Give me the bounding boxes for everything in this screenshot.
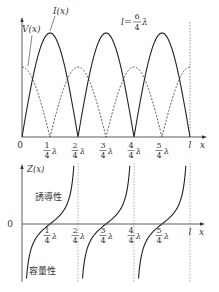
inductive-region-label: 誘導性	[35, 191, 62, 202]
bottom-x-label: x	[199, 227, 204, 237]
svg-text:5: 5	[156, 141, 161, 150]
top-tick-labels: 14λ24λ34λ44λ54λ	[44, 141, 170, 160]
tick-label: 34λ	[100, 141, 114, 160]
bottom-x-arrow-icon	[200, 222, 205, 225]
svg-text:4: 4	[44, 236, 49, 245]
impedance-label: Z(x)	[26, 164, 44, 174]
top-y-arrow-icon	[20, 17, 23, 22]
tick-label: 24λ	[72, 226, 86, 245]
svg-text:1: 1	[44, 141, 49, 150]
svg-text:λ: λ	[107, 147, 113, 156]
voltage-curve	[22, 67, 190, 137]
top-plot: I(x) V(x) l= 6 4 λ 0 l x 14λ24λ34λ44λ54λ	[17, 6, 207, 160]
tick-label: 14λ	[44, 141, 58, 160]
current-curve	[22, 33, 190, 137]
capacitive-region-label: 容量性	[29, 265, 56, 276]
svg-text:3: 3	[100, 226, 105, 235]
tick-label: 54λ	[156, 141, 170, 160]
svg-text:λ: λ	[163, 147, 169, 156]
impedance-curve	[26, 166, 185, 279]
current-label: I(x)	[52, 6, 69, 16]
svg-text:4: 4	[72, 151, 77, 160]
svg-text:2: 2	[72, 141, 77, 150]
svg-text:4: 4	[100, 151, 105, 160]
svg-text:λ: λ	[135, 147, 141, 156]
tick-label: 54λ	[156, 226, 170, 245]
tick-label: 44λ	[128, 226, 142, 245]
tick-label: 24λ	[72, 141, 86, 160]
bottom-plot: Z(x) 0 l x 誘導性 容量性 14λ24λ34λ44λ54λ	[7, 163, 205, 282]
svg-text:2: 2	[72, 226, 77, 235]
svg-text:4: 4	[44, 151, 49, 160]
bottom-end-label: l	[189, 227, 192, 237]
svg-text:4: 4	[128, 236, 133, 245]
tick-label: 34λ	[100, 226, 114, 245]
standing-wave-diagram: I(x) V(x) l= 6 4 λ 0 l x 14λ24λ34λ44λ54λ…	[0, 0, 219, 292]
top-origin-label: 0	[17, 140, 23, 150]
svg-text:4: 4	[156, 151, 161, 160]
tick-label: 14λ	[44, 226, 58, 245]
svg-text:4: 4	[156, 236, 161, 245]
svg-text:λ: λ	[163, 232, 169, 241]
svg-text:5: 5	[156, 226, 161, 235]
svg-text:4: 4	[128, 226, 133, 235]
svg-text:λ: λ	[135, 232, 141, 241]
bottom-zero-label: 0	[7, 219, 13, 229]
svg-text:λ: λ	[51, 147, 57, 156]
svg-text:4: 4	[134, 23, 139, 32]
svg-text:4: 4	[72, 236, 77, 245]
svg-text:1: 1	[44, 226, 49, 235]
voltage-label: V(x)	[22, 24, 41, 34]
top-x-arrow-icon	[202, 135, 207, 138]
svg-text:λ: λ	[107, 232, 113, 241]
svg-text:λ: λ	[79, 232, 85, 241]
voltage-leader	[28, 35, 32, 66]
bottom-y-arrow-icon	[20, 164, 23, 169]
tick-label: 44λ	[128, 141, 142, 160]
svg-text:λ: λ	[51, 232, 57, 241]
length-annotation: l= 6 4 λ	[121, 12, 148, 32]
svg-text:l=: l=	[121, 17, 131, 27]
top-end-label: l	[189, 140, 192, 150]
svg-text:4: 4	[128, 151, 133, 160]
svg-text:3: 3	[100, 141, 105, 150]
svg-text:4: 4	[128, 141, 133, 150]
current-leader	[50, 16, 55, 31]
svg-text:λ: λ	[79, 147, 85, 156]
svg-text:λ: λ	[141, 17, 148, 27]
svg-text:6: 6	[134, 12, 139, 21]
top-x-label: x	[200, 140, 205, 150]
svg-text:4: 4	[100, 236, 105, 245]
